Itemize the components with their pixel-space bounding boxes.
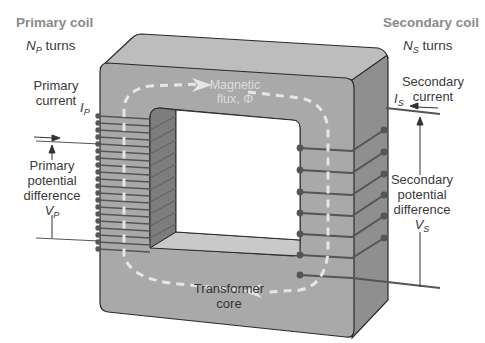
secondary-coil-title: Secondary coil [383, 15, 479, 30]
core-window [176, 110, 300, 240]
primary-turns-label: NP turns [26, 38, 76, 58]
primary-coil-title: Primary coil [16, 15, 93, 30]
magnetic-flux-label: Magnetic flux, Φ [200, 78, 270, 106]
primary-current-symbol: IP [80, 100, 90, 120]
secondary-pd-label: Secondary potential difference VS [386, 172, 458, 237]
secondary-current-label: Secondary current [396, 74, 470, 104]
primary-current-arrow [34, 135, 60, 141]
primary-pd-label: Primary potential difference VP [22, 158, 82, 223]
primary-current-label: Primary current [28, 78, 84, 108]
transformer-core-label: Transformer core [184, 281, 274, 311]
secondary-turns-label: NS turns [403, 38, 453, 58]
secondary-current-symbol: IS [394, 91, 404, 111]
